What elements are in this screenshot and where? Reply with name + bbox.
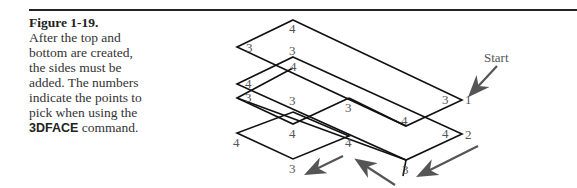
point-label: 4 xyxy=(290,59,297,74)
arrow-left-2 xyxy=(420,146,478,175)
point-label: 3 xyxy=(402,162,409,177)
isometric-diagram: Start 4 3 3 4 4 3 3 3 4 4 3 1 4 2 4 3 3 … xyxy=(0,0,577,188)
point-label: 4 xyxy=(289,126,296,141)
inner-edge-b xyxy=(237,98,406,160)
arrow-left-1 xyxy=(308,156,343,173)
point-label: 2 xyxy=(465,127,472,142)
point-label: 3 xyxy=(246,40,253,55)
point-label: 3 xyxy=(289,43,296,58)
lower-right-edge xyxy=(349,98,406,126)
point-label: 3 xyxy=(289,93,296,108)
point-label: 4 xyxy=(401,113,408,128)
point-label: 1 xyxy=(465,92,472,107)
point-label: 3 xyxy=(289,161,296,176)
arrow-up-left xyxy=(358,161,395,185)
point-label: 3 xyxy=(245,90,252,105)
point-label: 4 xyxy=(442,126,449,141)
point-label: 4 xyxy=(345,135,352,150)
start-arrow xyxy=(471,66,497,94)
point-label: 4 xyxy=(289,21,296,36)
point-label: 4 xyxy=(245,76,252,91)
point-label: 3 xyxy=(442,92,449,107)
start-label: Start xyxy=(484,50,509,65)
point-label: 3 xyxy=(345,100,352,115)
point-label: 4 xyxy=(233,135,240,150)
